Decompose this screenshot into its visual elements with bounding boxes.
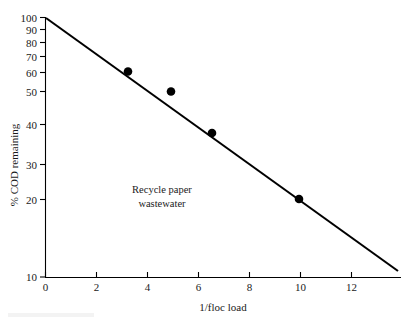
data-point-4	[295, 195, 304, 204]
chart-figure: 100 90 80 70 60 50 40 30 20 10 0 2 4 6	[0, 0, 411, 325]
x-tick-label-4: 4	[145, 281, 151, 293]
y-axis-title: % COD remaining	[8, 123, 20, 206]
x-tick-label-2: 2	[94, 281, 100, 293]
annotation-line-1: Recycle paper	[132, 184, 192, 195]
y-tick-label-100: 100	[21, 12, 38, 24]
y-tick-label-30: 30	[26, 159, 38, 171]
scatter-plot-svg: 100 90 80 70 60 50 40 30 20 10 0 2 4 6	[0, 0, 411, 325]
y-tick-label-70: 70	[26, 51, 38, 63]
y-tick-label-40: 40	[26, 119, 38, 131]
x-tick-label-6: 6	[196, 281, 202, 293]
annotation-line-2: wastewater	[138, 198, 186, 209]
y-tick-label-90: 90	[26, 24, 38, 36]
y-tick-label-50: 50	[26, 86, 38, 98]
x-tick-label-12: 12	[346, 281, 357, 293]
x-axis-title: 1/floc load	[199, 301, 247, 313]
y-tick-label-60: 60	[26, 67, 38, 79]
x-tick-label-0: 0	[43, 281, 49, 293]
x-tick-label-10: 10	[295, 281, 307, 293]
data-point-1	[124, 67, 133, 76]
plot-background	[0, 0, 411, 325]
page-footer-artifact	[8, 313, 94, 317]
y-tick-label-20: 20	[26, 194, 38, 206]
y-tick-label-80: 80	[26, 37, 38, 49]
x-tick-label-8: 8	[247, 281, 253, 293]
data-point-3	[208, 129, 217, 138]
data-point-2	[167, 87, 176, 96]
y-tick-label-10: 10	[26, 271, 38, 283]
